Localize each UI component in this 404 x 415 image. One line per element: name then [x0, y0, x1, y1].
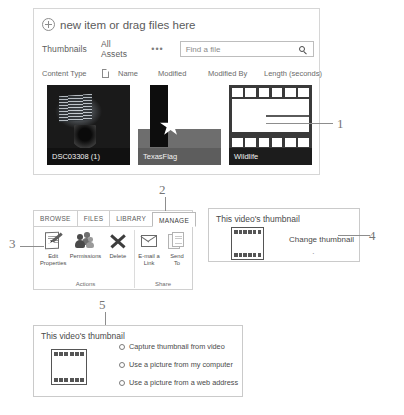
asset-caption: TexasFlag [138, 148, 221, 165]
change-thumbnail-title: This video's thumbnail [216, 214, 300, 224]
radio-button[interactable] [119, 380, 125, 386]
search-icon[interactable] [299, 46, 308, 55]
filmstrip-icon [231, 227, 264, 260]
callout-5-number: 5 [99, 297, 106, 313]
delete-label: Delete [109, 253, 126, 260]
callout-3-leader [20, 246, 44, 247]
ribbon-panel: BROWSE FILES LIBRARY MANAGE Edit Propert… [33, 210, 193, 290]
tab-browse[interactable]: BROWSE [34, 211, 77, 226]
document-icon [102, 69, 109, 80]
asset-tile-image[interactable]: TexasFlag [138, 85, 221, 165]
column-headers: Content Type Name Modified Modified By L… [42, 68, 317, 82]
column-name[interactable]: Name [118, 69, 138, 78]
change-thumbnail-dot: · [312, 249, 315, 258]
callout-3-number: 3 [9, 236, 16, 252]
ribbon-group-label-share: Share [135, 281, 191, 287]
edit-properties-label-line2: Properties [40, 260, 66, 266]
radio-label: Capture thumbnail from video [129, 343, 225, 351]
permissions-button[interactable]: Permissions [70, 231, 100, 276]
search-input[interactable]: Find a file [180, 41, 314, 57]
asset-caption: DSC03308 (1) [47, 148, 130, 165]
column-modified[interactable]: Modified [158, 69, 186, 78]
edit-properties-button[interactable]: Edit Properties [38, 231, 68, 276]
tab-manage[interactable]: MANAGE [152, 212, 196, 227]
ribbon-body: Edit Properties Permissions Delete [34, 227, 192, 290]
ribbon-tabs: BROWSE FILES LIBRARY MANAGE [34, 211, 192, 227]
asset-caption: Wildlife [229, 148, 312, 165]
plus-circle-icon [42, 18, 55, 31]
library-toolbar: Thumbnails All Assets ••• Find a file [42, 40, 314, 58]
ribbon-group-actions: Edit Properties Permissions Delete [37, 230, 135, 288]
new-item-label: new item or drag files here [60, 19, 196, 31]
column-length[interactable]: Length (seconds) [264, 69, 322, 78]
edit-properties-icon [43, 231, 63, 251]
permissions-people-icon [75, 231, 95, 251]
tab-library[interactable]: LIBRARY [110, 211, 152, 226]
radio-option-picture-from-computer[interactable]: Use a picture from my computer [119, 361, 239, 369]
view-thumbnails[interactable]: Thumbnails [42, 44, 87, 54]
radio-button[interactable] [119, 362, 125, 368]
thumbnail-options-title: This video's thumbnail [41, 331, 125, 341]
change-thumbnail-link[interactable]: Change thumbnail [289, 235, 354, 244]
column-modified-by[interactable]: Modified By [208, 69, 247, 78]
radio-label: Use a picture from my computer [129, 361, 233, 369]
column-content-type[interactable]: Content Type [42, 69, 86, 78]
radio-option-capture-from-video[interactable]: Capture thumbnail from video [119, 343, 239, 351]
callout-2-leader [165, 197, 166, 211]
asset-library-panel: new item or drag files here Thumbnails A… [33, 8, 320, 175]
email-envelope-icon [139, 231, 159, 251]
tab-files[interactable]: FILES [77, 211, 111, 226]
send-to-label-line1: Send [170, 253, 184, 259]
thumbnail-grid: DSC03308 (1) TexasFlag Wildlife [47, 85, 315, 165]
send-to-button[interactable]: Send To [163, 231, 191, 276]
send-to-label-line2: To [174, 260, 180, 266]
asset-tile-photo[interactable]: DSC03308 (1) [47, 85, 130, 165]
callout-1-number: 1 [337, 116, 344, 132]
callout-4-number: 4 [369, 228, 376, 244]
callout-4-leader [338, 235, 370, 236]
thumbnail-options-panel: This video's thumbnail Capture thumbnail… [33, 325, 243, 397]
permissions-label: Permissions [70, 253, 102, 260]
ribbon-group-label-actions: Actions [37, 281, 134, 287]
email-a-link-button[interactable]: E-mail a Link [135, 231, 163, 276]
ribbon-group-share: E-mail a Link Send To Share [135, 230, 191, 288]
new-item-link[interactable]: new item or drag files here [42, 16, 242, 33]
radio-label: Use a picture from a web address [129, 379, 238, 387]
callout-1-leader [266, 123, 333, 124]
radio-button[interactable] [119, 344, 125, 350]
delete-button[interactable]: Delete [103, 231, 133, 276]
edit-properties-label-line1: Edit [48, 253, 58, 259]
email-a-link-label-line1: E-mail a [138, 253, 159, 259]
more-options-ellipsis[interactable]: ••• [151, 44, 163, 54]
thumbnail-source-radio-group: Capture thumbnail from video Use a pictu… [119, 343, 239, 397]
callout-2-number: 2 [159, 182, 166, 198]
callout-5-leader [105, 312, 106, 326]
delete-x-icon [108, 231, 128, 251]
filmstrip-icon [51, 349, 87, 385]
search-placeholder: Find a file [186, 45, 221, 54]
asset-tile-video[interactable]: Wildlife [229, 85, 312, 165]
view-all-assets[interactable]: All Assets [101, 39, 137, 59]
radio-option-picture-from-web[interactable]: Use a picture from a web address [119, 379, 239, 387]
send-to-pages-icon [167, 231, 187, 251]
email-a-link-label-line2: Link [144, 260, 155, 266]
